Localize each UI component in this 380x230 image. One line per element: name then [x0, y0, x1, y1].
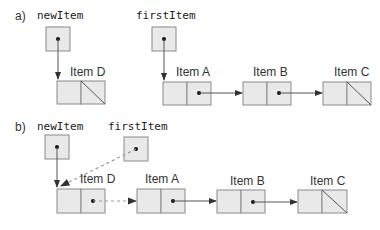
newitem-pointer-b	[45, 135, 69, 187]
part-a: a) newItem firstItem Item D Item A	[15, 9, 371, 105]
node-item-d-b: Item D	[57, 172, 136, 213]
node-label: Item C	[310, 174, 346, 188]
newitem-label-b: newItem	[37, 120, 84, 133]
firstitem-label-b: firstItem	[108, 120, 168, 133]
node-item-a-a: Item A	[163, 65, 242, 105]
node-label: Item D	[80, 172, 116, 186]
part-b: b) newItem firstItem Item D Item A	[15, 120, 347, 213]
node-label: Item A	[176, 65, 210, 79]
linked-list-insert-diagram: a) newItem firstItem Item D Item A	[0, 0, 380, 230]
firstitem-pointer-a	[152, 27, 176, 80]
firstitem-label-a: firstItem	[136, 9, 196, 22]
newitem-pointer-a	[46, 27, 70, 79]
node-item-b-a: Item B	[243, 65, 322, 105]
node-item-d-a: Item D	[57, 65, 106, 104]
part-a-label: a)	[15, 9, 26, 23]
node-item-c-a: Item C	[323, 65, 371, 105]
part-b-label: b)	[15, 120, 26, 134]
node-label: Item D	[70, 65, 106, 79]
node-item-b-b: Item B	[217, 174, 297, 213]
node-item-a-b: Item A	[137, 172, 216, 213]
newitem-label-a: newItem	[37, 9, 84, 22]
node-label: Item A	[145, 172, 179, 186]
node-label: Item C	[334, 65, 370, 79]
node-label: Item B	[253, 65, 288, 79]
node-label: Item B	[230, 174, 265, 188]
node-item-c-b: Item C	[298, 174, 347, 213]
